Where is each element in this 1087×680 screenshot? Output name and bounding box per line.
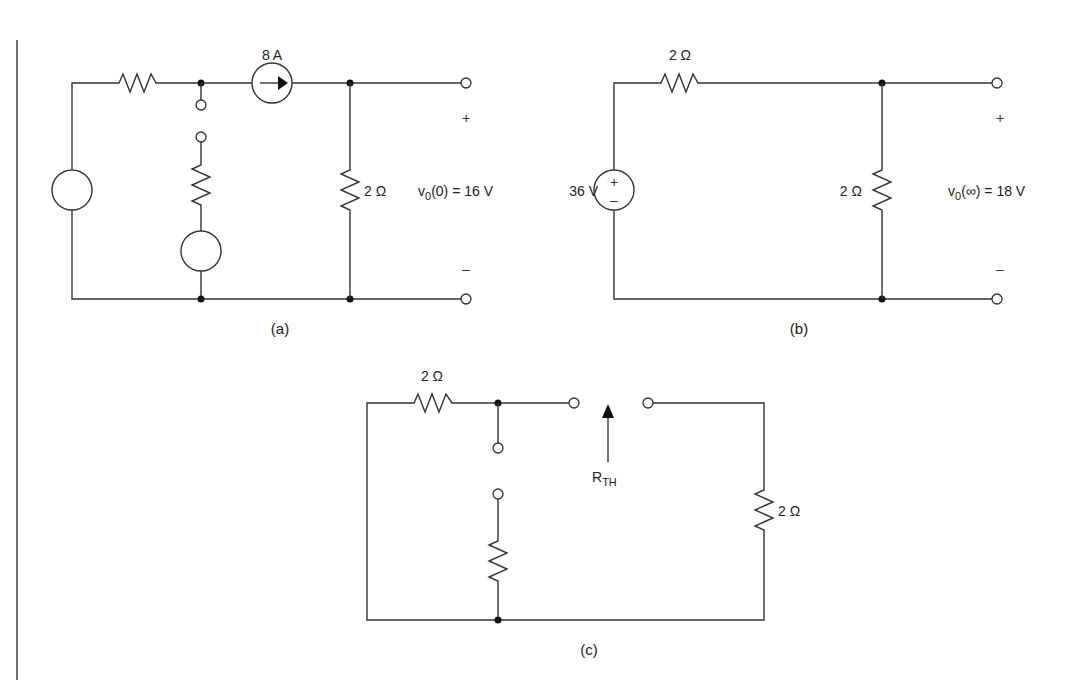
resistor-series-c <box>410 394 458 412</box>
open-terminal <box>196 100 206 110</box>
load-resistor-label: 2 Ω <box>364 183 386 199</box>
output-voltage-label: v0(0) = 16 V <box>418 183 494 202</box>
wire <box>614 83 657 170</box>
current-source-label: 8 A <box>262 47 283 63</box>
caption-a: (a) <box>271 320 289 337</box>
open-terminal <box>196 132 206 142</box>
rth-label: RTH <box>592 469 617 488</box>
minus-sign: – <box>996 261 1004 277</box>
node-dot <box>495 617 502 624</box>
voltage-source-left-a <box>52 170 92 210</box>
resistor-mid-c <box>489 538 507 585</box>
open-terminal <box>493 489 503 499</box>
arrow-head-icon <box>602 404 614 418</box>
load-resistor-label: 2 Ω <box>778 503 800 519</box>
plus-sign: + <box>462 110 470 126</box>
resistor-load-c <box>755 487 773 533</box>
resistor-top-a <box>115 74 160 92</box>
terminal-left-c <box>569 398 579 408</box>
circuit-a: 8 A 2 Ω v0(0) = 16 V + – (a) <box>52 47 494 337</box>
circuit-b: + – 36 V 2 Ω 2 Ω v0(∞) = 18 V + – (b) <box>569 47 1026 337</box>
resistor-load-b <box>873 167 891 213</box>
resistor-mid-a <box>192 162 210 208</box>
terminal-minus-a <box>461 294 471 304</box>
terminal-plus-b <box>992 78 1002 88</box>
minus-sign: – <box>462 261 470 277</box>
wire <box>614 210 992 299</box>
caption-c: (c) <box>580 641 598 658</box>
resistor-load-a <box>341 167 359 213</box>
source-plus: + <box>610 174 618 190</box>
node-dot <box>198 296 205 303</box>
terminal-minus-b <box>992 294 1002 304</box>
load-resistor-label: 2 Ω <box>840 183 862 199</box>
wire <box>653 403 764 487</box>
resistor-series-b <box>657 74 703 92</box>
wire <box>72 83 115 170</box>
source-label: 36 V <box>569 183 598 199</box>
output-voltage-label: v0(∞) = 18 V <box>948 183 1026 202</box>
series-resistor-label: 2 Ω <box>421 368 443 384</box>
wire <box>367 403 764 620</box>
terminal-right-c <box>643 398 653 408</box>
caption-b: (b) <box>790 320 808 337</box>
circuit-c: 2 Ω 2 Ω RTH (c) <box>367 368 800 658</box>
source-minus: – <box>610 192 618 208</box>
circuit-figure: 8 A 2 Ω v0(0) = 16 V + – (a) + – 36 V 2 … <box>0 0 1087 680</box>
open-terminal <box>493 443 503 453</box>
terminal-plus-a <box>461 78 471 88</box>
voltage-source-mid-a <box>181 231 221 271</box>
series-resistor-label: 2 Ω <box>669 47 691 63</box>
plus-sign: + <box>996 110 1004 126</box>
wire <box>72 210 463 299</box>
